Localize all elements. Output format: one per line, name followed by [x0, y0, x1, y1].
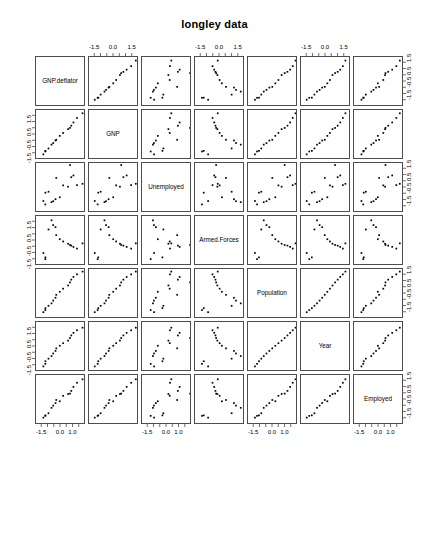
diagonal-panel-armed-forces: Armed.Forces: [194, 215, 244, 265]
scatter-points: [195, 110, 244, 159]
axis-tick-label: -1.5: [406, 195, 412, 205]
scatter-points: [89, 57, 138, 106]
axis-tick-label: 1.5: [26, 221, 32, 229]
variable-label: Population: [248, 269, 296, 317]
scatter-panel: [353, 162, 403, 212]
scatter-points: [36, 163, 85, 212]
scatter-panel: [141, 109, 191, 159]
scatter-points: [36, 110, 85, 159]
axis-tick-label: 1.0: [280, 429, 288, 435]
axis-tick-label: 0.5: [406, 66, 412, 74]
scatter-panel: [353, 268, 403, 318]
axis-tick-label: -1.5: [26, 153, 32, 163]
top-axis-ticks: [88, 52, 138, 57]
scatter-points: [301, 375, 350, 424]
axis-tick-label: -1.5: [406, 89, 412, 99]
diagonal-panel-gnp: GNP: [88, 109, 138, 159]
scatter-points: [142, 110, 191, 159]
scatter-points: [195, 375, 244, 424]
scatter-panel: [300, 268, 350, 318]
scatter-points: [301, 216, 350, 265]
axis-tick-label: -1.5: [406, 301, 412, 311]
diagonal-panel-unemployed: Unemployed: [141, 162, 191, 212]
axis-tick-label: 1.5: [406, 372, 412, 380]
scatter-points: [248, 110, 297, 159]
scatter-points: [36, 216, 85, 265]
scatter-points: [36, 375, 85, 424]
axis-tick-label: 0.0: [56, 429, 64, 435]
scatter-panel: [353, 109, 403, 159]
scatter-points: [354, 216, 403, 265]
axis-tick-label: -1.5: [248, 429, 258, 435]
scatter-panel: [300, 109, 350, 159]
scatter-panel: [247, 109, 297, 159]
axis-tick-label: 0.0: [374, 429, 382, 435]
axis-tick-label: 0.5: [26, 340, 32, 348]
axis-tick-label: 1.5: [26, 115, 32, 123]
scatter-panel: [194, 321, 244, 371]
diagonal-panel-gnp-deflator: GNP.deflator: [35, 56, 85, 106]
scatter-points: [195, 163, 244, 212]
scatter-points: [301, 57, 350, 106]
scatter-panel: [88, 321, 138, 371]
axis-tick-label: 1.5: [406, 160, 412, 168]
scatter-points: [89, 375, 138, 424]
variable-label: GNP.deflator: [36, 57, 84, 105]
axis-tick-label: -1.5: [142, 429, 152, 435]
scatter-panel: [194, 109, 244, 159]
scatter-points: [248, 375, 297, 424]
scatter-points: [301, 163, 350, 212]
axis-tick-label: -0.5: [406, 183, 412, 193]
axis-tick-label: -0.5: [26, 352, 32, 362]
axis-tick-label: -1.5: [354, 429, 364, 435]
scatter-panel: [300, 374, 350, 424]
scatter-points: [142, 269, 191, 318]
top-axis-ticks: [194, 52, 244, 57]
scatter-panel: [300, 215, 350, 265]
scatter-points: [248, 216, 297, 265]
top-axis-ticks: [300, 52, 350, 57]
scatter-points: [142, 322, 191, 371]
scatter-points: [195, 269, 244, 318]
axis-tick-label: 0.0: [321, 44, 329, 50]
axis-tick-label: 0.5: [26, 128, 32, 136]
scatter-points: [89, 163, 138, 212]
axis-tick-label: -1.5: [89, 44, 99, 50]
variable-label: Armed.Forces: [195, 216, 243, 264]
scatter-points: [354, 57, 403, 106]
scatter-points: [354, 269, 403, 318]
scatter-panel: [141, 374, 191, 424]
scatter-panel: [247, 56, 297, 106]
scatter-points: [36, 269, 85, 318]
scatter-panel: [353, 321, 403, 371]
scatter-points: [195, 322, 244, 371]
scatter-panel: [35, 321, 85, 371]
diagonal-panel-employed: Employed: [353, 374, 403, 424]
scatter-panel: [194, 374, 244, 424]
pairs-matrix: GNP.deflatorGNPUnemployedArmed.ForcesPop…: [0, 0, 406, 427]
scatter-panel: [300, 56, 350, 106]
scatter-panel: [247, 215, 297, 265]
axis-tick-label: 1.5: [406, 266, 412, 274]
scatter-panel: [35, 215, 85, 265]
axis-tick-label: 1.0: [174, 429, 182, 435]
axis-tick-label: 0.0: [162, 429, 170, 435]
scatter-points: [248, 322, 297, 371]
axis-tick-label: -1.5: [301, 44, 311, 50]
scatter-panel: [35, 268, 85, 318]
axis-tick-label: 1.5: [406, 54, 412, 62]
scatter-points: [89, 216, 138, 265]
scatter-panel: [247, 374, 297, 424]
axis-tick-label: 0.0: [268, 429, 276, 435]
scatter-panel: [194, 162, 244, 212]
scatter-panel: [141, 321, 191, 371]
axis-tick-label: -0.5: [26, 140, 32, 150]
scatter-panel: [353, 56, 403, 106]
scatter-points: [142, 375, 191, 424]
scatter-panel: [353, 215, 403, 265]
axis-tick-label: 1.5: [340, 44, 348, 50]
scatter-points: [248, 163, 297, 212]
scatter-panel: [88, 374, 138, 424]
scatter-points: [354, 322, 403, 371]
variable-label: Employed: [354, 375, 402, 423]
